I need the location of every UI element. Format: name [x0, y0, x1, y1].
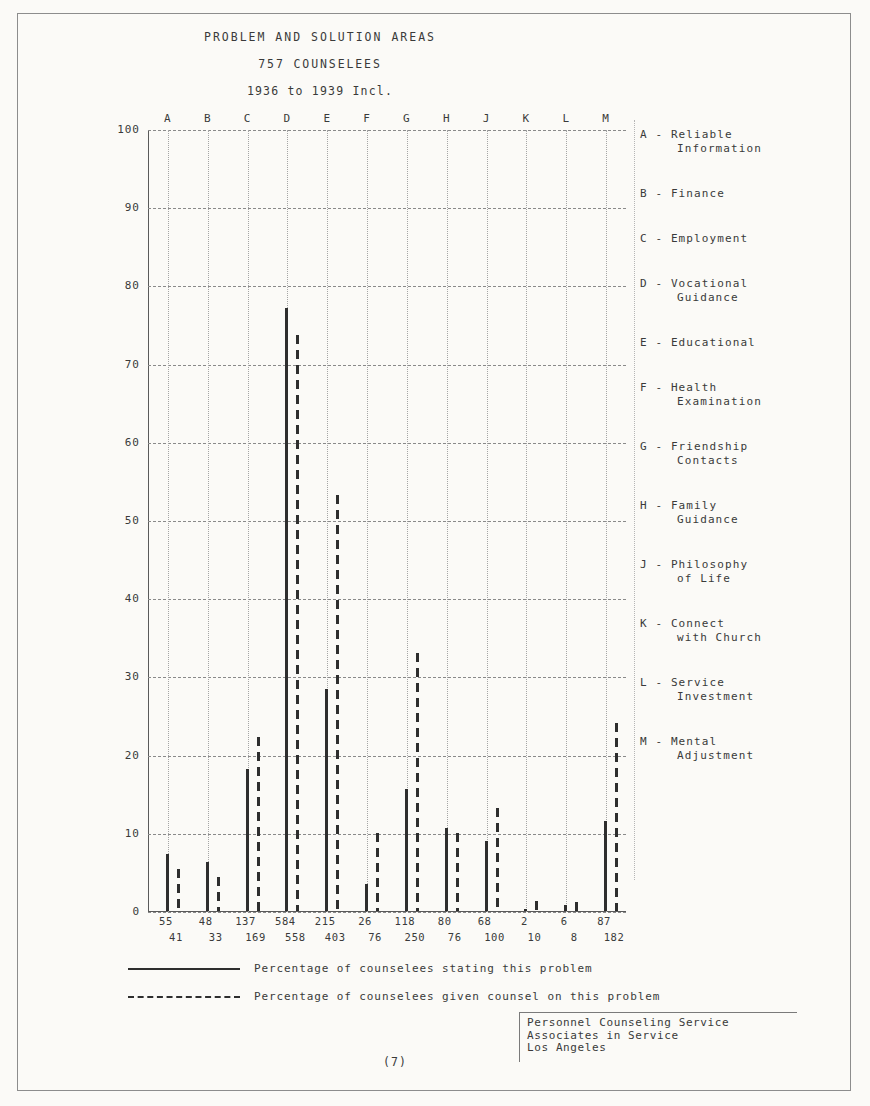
y-tick-label-100: 100 [94, 123, 140, 136]
gridline-y-90 [148, 208, 626, 209]
bar-solid-B [206, 862, 209, 911]
x-count-counseled-F: 76 [355, 931, 395, 943]
bar-dashed-H [456, 833, 459, 911]
key-item-line1: M - Mental [640, 735, 855, 749]
x-count-counseled-L: 8 [554, 931, 594, 943]
key-separator [634, 120, 636, 880]
column-label-E: E [317, 112, 337, 125]
gridline-x-A [168, 130, 169, 912]
key-item-line1: J - Philosophy [640, 558, 855, 572]
key-item-H: H - FamilyGuidance [640, 499, 855, 527]
key-item-line1: B - Finance [640, 187, 855, 201]
key-item-F: F - HealthExamination [640, 381, 855, 409]
plot-area: ABCDEFGHJKLM [148, 130, 626, 912]
y-tick-label-70: 70 [94, 358, 140, 371]
gridline-x-H [447, 130, 448, 912]
x-count-stating-F: 26 [345, 915, 385, 927]
bar-solid-M [604, 821, 607, 911]
bar-solid-C [246, 769, 249, 911]
key-item-line2: Contacts [640, 454, 855, 468]
key-item-C: C - Employment [640, 232, 855, 246]
bar-dashed-J [496, 808, 499, 911]
y-tick-label-30: 30 [94, 670, 140, 683]
column-label-G: G [397, 112, 417, 125]
bar-dashed-B [217, 877, 220, 911]
legend-row-solid: Percentage of counselees stating this pr… [128, 962, 648, 975]
bar-dashed-E [336, 495, 339, 911]
gridline-y-100 [148, 130, 626, 131]
x-count-stating-H: 80 [425, 915, 465, 927]
key-item-line1: C - Employment [640, 232, 855, 246]
key-item-line2: Adjustment [640, 749, 855, 763]
gridline-y-30 [148, 677, 626, 678]
column-label-J: J [477, 112, 497, 125]
column-label-A: A [158, 112, 178, 125]
y-axis-labels: 0102030405060708090100 [94, 130, 140, 912]
key-item-line1: G - Friendship [640, 440, 855, 454]
dashed-line-swatch [128, 996, 240, 998]
column-label-B: B [198, 112, 218, 125]
x-count-stating-B: 48 [186, 915, 226, 927]
key-item-D: D - VocationalGuidance [640, 277, 855, 305]
x-count-stating-D: 584 [265, 915, 305, 927]
solid-line-swatch [128, 968, 240, 970]
key-item-line2: Examination [640, 395, 855, 409]
gridline-y-80 [148, 286, 626, 287]
bar-solid-L [564, 905, 567, 911]
column-label-F: F [357, 112, 377, 125]
gridline-x-L [566, 130, 567, 912]
gridline-y-60 [148, 443, 626, 444]
bar-dashed-C [257, 737, 260, 911]
y-tick-label-40: 40 [94, 592, 140, 605]
key-item-line1: F - Health [640, 381, 855, 395]
x-axis-value-columns: 5541483313716958455821540326761182508076… [148, 915, 626, 955]
bar-solid-A [166, 854, 169, 911]
x-count-stating-M: 87 [584, 915, 624, 927]
y-tick-label-90: 90 [94, 201, 140, 214]
chart-titles: PROBLEM AND SOLUTION AREAS 757 COUNSELEE… [0, 30, 640, 111]
key-item-B: B - Finance [640, 187, 855, 201]
bar-solid-K [524, 909, 527, 911]
column-label-C: C [238, 112, 258, 125]
x-count-stating-K: 2 [504, 915, 544, 927]
y-tick-label-0: 0 [94, 905, 140, 918]
category-key: A - ReliableInformationB - FinanceC - Em… [640, 128, 855, 794]
bar-dashed-K [535, 901, 538, 911]
key-item-line2: with Church [640, 631, 855, 645]
x-count-counseled-K: 10 [514, 931, 554, 943]
bar-solid-E [325, 689, 328, 911]
column-label-L: L [556, 112, 576, 125]
attribution-line-1: Personnel Counseling Service [527, 1017, 791, 1030]
x-count-stating-G: 118 [385, 915, 425, 927]
key-item-line1: K - Connect [640, 617, 855, 631]
bar-solid-D [285, 308, 288, 911]
gridline-y-50 [148, 521, 626, 522]
gridline-x-F [367, 130, 368, 912]
bar-dashed-M [615, 723, 618, 911]
series-legend: Percentage of counselees stating this pr… [128, 962, 648, 1018]
key-item-line2: Guidance [640, 291, 855, 305]
legend-label-solid: Percentage of counselees stating this pr… [254, 962, 593, 975]
x-count-counseled-A: 41 [156, 931, 196, 943]
key-item-E: E - Educational [640, 336, 855, 350]
key-item-line1: L - Service [640, 676, 855, 690]
key-item-line2: Information [640, 142, 855, 156]
bar-dashed-A [177, 869, 180, 911]
x-count-counseled-C: 169 [236, 931, 276, 943]
x-count-stating-J: 68 [465, 915, 505, 927]
bar-solid-G [405, 789, 408, 911]
legend-label-dashed: Percentage of counselees given counsel o… [254, 990, 660, 1003]
column-label-K: K [516, 112, 536, 125]
gridline-y-10 [148, 834, 626, 835]
bar-solid-H [445, 828, 448, 911]
key-item-line2: of Life [640, 572, 855, 586]
y-tick-label-60: 60 [94, 436, 140, 449]
x-count-counseled-G: 250 [395, 931, 435, 943]
y-tick-label-80: 80 [94, 279, 140, 292]
gridline-y-40 [148, 599, 626, 600]
bar-solid-F [365, 884, 368, 911]
page-number: (7) [0, 1055, 790, 1069]
key-item-M: M - MentalAdjustment [640, 735, 855, 763]
key-item-J: J - Philosophyof Life [640, 558, 855, 586]
legend-row-dashed: Percentage of counselees given counsel o… [128, 990, 648, 1003]
